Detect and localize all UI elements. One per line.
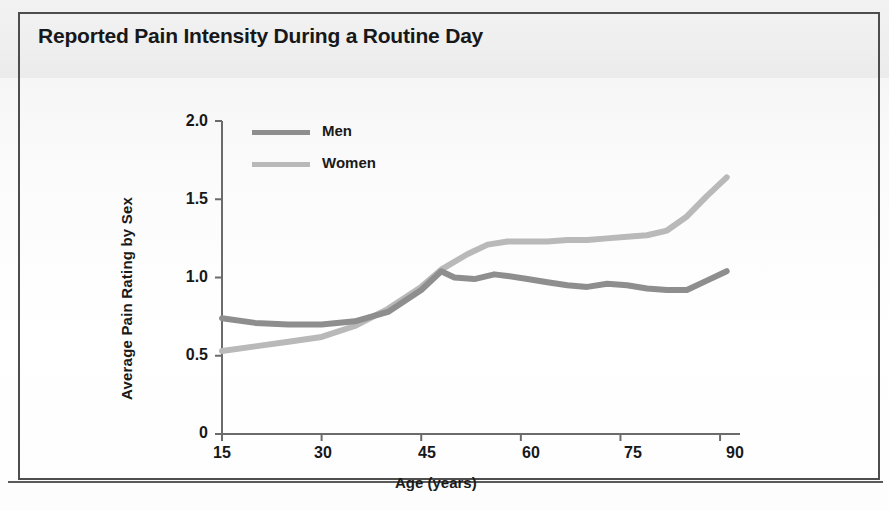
x-axis-ticks [222,434,720,441]
plot-area [0,0,889,510]
line-chart: Average Pain Rating by Sex Age (years) 2… [0,0,889,510]
figure-container: Reported Pain Intensity During a Routine… [0,0,889,510]
series-line-men [222,271,727,324]
y-axis-ticks [215,121,222,434]
